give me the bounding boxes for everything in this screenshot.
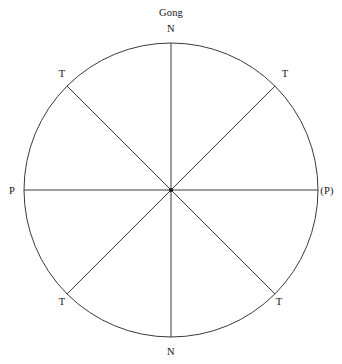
p-right-label: (P)	[320, 186, 333, 197]
t-southwest-label: T	[59, 297, 66, 308]
cycle-diagram: Gong N N P (P) T T T T	[0, 0, 342, 364]
t-northwest-label: T	[59, 69, 66, 80]
north-top-label: N	[167, 24, 175, 35]
t-northeast-label: T	[282, 69, 289, 80]
t-southeast-label: T	[276, 297, 283, 308]
center-dot	[169, 188, 173, 192]
gong-label: Gong	[159, 8, 183, 19]
p-left-label: P	[9, 186, 15, 197]
north-bottom-label: N	[167, 347, 175, 358]
cycle-diagram-canvas	[0, 0, 342, 364]
